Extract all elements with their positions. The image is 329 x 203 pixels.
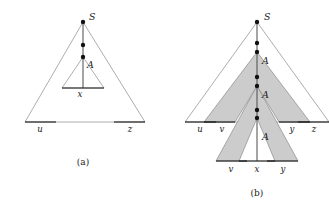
panel-b-label-z: z [311,124,317,134]
panel-b-node-A2-lower [255,84,259,88]
panel-b-node-A3-upper [255,108,259,112]
panel-b-label-y-upper: y [289,124,295,134]
parse-tree-figure: S A x u z (a) [0,0,329,203]
panel-a-label-z: z [127,124,133,134]
panel-b: S A A A u v y z v x y (b) [185,11,329,198]
panel-a-label-x: x [78,89,83,99]
panel-a: S A x u z (a) [25,11,145,167]
panel-a-caption: (a) [77,157,89,167]
panel-b-node-A2-upper [255,75,259,79]
cropped-header-text [2,0,122,6]
panel-b-node-A1-upper [255,41,259,45]
panel-b-label-S: S [264,11,271,22]
panel-b-label-u: u [197,124,202,134]
panel-b-caption: (b) [251,188,264,198]
panel-b-label-v-upper: v [220,124,225,134]
panel-b-label-y-lower: y [280,164,286,174]
panel-a-node-S [81,20,85,24]
panel-b-label-v-lower: v [229,164,234,174]
panel-b-node-S [255,20,259,24]
panel-b-label-A3: A [261,131,269,142]
panel-a-label-A: A [86,59,94,70]
panel-b-node-A1-lower [255,50,259,54]
panel-a-node-A-lower [81,55,85,59]
panel-b-node-A3-lower [255,116,259,120]
panel-a-label-u: u [37,124,42,134]
panel-b-label-x: x [255,164,260,174]
panel-a-label-S: S [89,11,96,22]
panel-a-node-A-upper [81,43,85,47]
figure-container: S A x u z (a) [0,0,329,203]
panel-b-label-A1: A [261,55,269,66]
panel-b-label-A2: A [261,89,269,100]
